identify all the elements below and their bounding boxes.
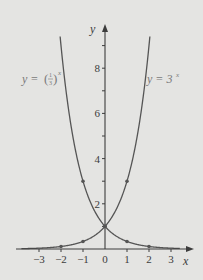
x-axis-label: x [182,254,189,268]
y-axis-label: y [89,22,96,36]
x-axis-arrow-icon [186,246,194,252]
x-tick-label: 2 [146,253,152,265]
x-tick-label: 0 [102,253,108,265]
svg-text:1: 1 [49,72,52,78]
data-point [125,240,129,244]
y-tick-label: 4 [95,153,101,165]
svg-text:y =: y = [21,72,38,86]
curves [21,36,179,248]
x-tick-label: −2 [55,253,67,265]
curve-one-third-power-x [60,36,180,248]
x-tick-label: 3 [168,253,174,265]
x-tick-label: −1 [77,253,89,265]
exponential-chart: −3−2−101232468 y x y = ( 1 3 ) x y = 3 x [0,0,203,280]
data-point [125,179,129,183]
data-point [81,240,85,244]
y-axis-arrow-icon [102,24,108,32]
svg-text:3: 3 [49,80,52,86]
svg-text:): ) [53,71,57,86]
y-tick-label: 8 [95,62,101,74]
data-point [59,245,63,249]
svg-text:(: ( [44,71,48,86]
svg-text:x: x [175,71,180,79]
data-point [81,179,85,183]
x-tick-label: 1 [124,253,130,265]
x-tick-label: −3 [33,253,45,265]
svg-text:x: x [57,69,62,77]
svg-text:y = 3: y = 3 [146,72,172,86]
y-tick-label: 6 [95,107,101,119]
right-curve-label: y = 3 x [146,71,180,86]
data-point [103,225,107,229]
curve-three-power-x [21,36,149,248]
left-curve-label: y = ( 1 3 ) x [21,69,62,86]
data-point [147,245,151,249]
axes [16,24,194,252]
y-tick-label: 2 [95,198,101,210]
